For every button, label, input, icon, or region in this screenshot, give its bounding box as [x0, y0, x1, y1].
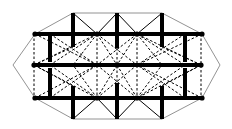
dashed-edge — [162, 65, 201, 86]
graph-node — [31, 62, 36, 67]
outline-edge — [162, 13, 202, 34]
graph-node — [32, 95, 37, 100]
solid-edge — [97, 13, 117, 34]
solid-edge — [73, 13, 97, 34]
dashed-edge — [162, 47, 201, 65]
graph-node — [199, 31, 204, 36]
outline-edge — [35, 13, 73, 34]
outline-edge — [202, 34, 220, 65]
dashed-edge — [73, 34, 97, 65]
dashed-edge — [137, 65, 162, 98]
graph-node — [134, 95, 139, 100]
outline-edge — [35, 98, 73, 119]
dashed-edge — [117, 34, 137, 65]
solid-edge — [73, 98, 97, 119]
dashed-edge — [97, 65, 117, 98]
graph-node — [94, 31, 99, 36]
solid-edge — [117, 13, 137, 34]
outline-edge — [13, 34, 35, 65]
dashed-edge — [34, 65, 73, 86]
outline-edge — [162, 98, 202, 119]
graph-node — [94, 95, 99, 100]
outline-edge — [13, 65, 35, 98]
dashed-edge — [117, 65, 137, 98]
solid-edge — [117, 98, 137, 119]
graph-node — [32, 31, 37, 36]
graph-node — [134, 31, 139, 36]
graph-node — [198, 62, 203, 67]
graph-diagram — [0, 0, 232, 129]
dashed-edge — [97, 34, 117, 65]
solid-edge — [97, 98, 117, 119]
graph-node — [114, 62, 119, 67]
dashed-edge — [137, 34, 162, 65]
outline-edge — [202, 65, 220, 98]
solid-edge — [137, 98, 162, 119]
graph-node — [199, 95, 204, 100]
dashed-edge — [73, 65, 97, 98]
solid-edge — [137, 13, 162, 34]
